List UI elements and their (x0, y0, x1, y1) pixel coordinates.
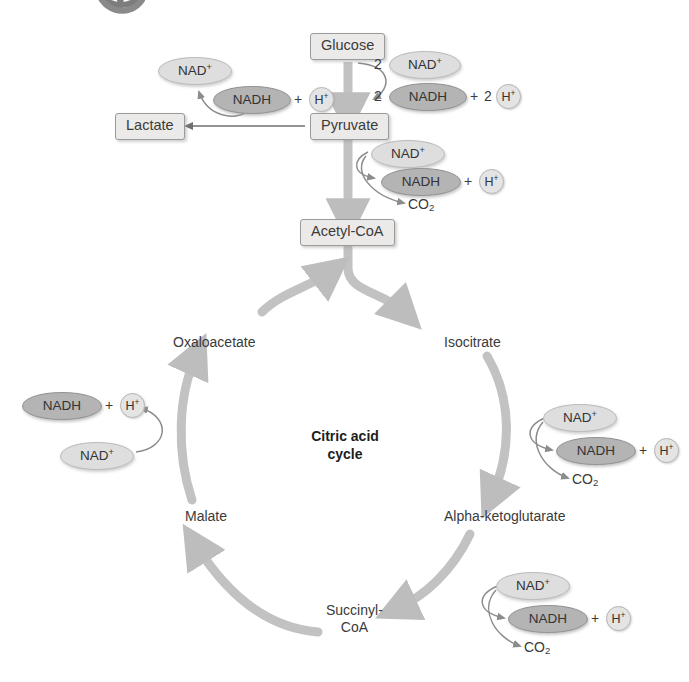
pill-label: NAD+ (563, 411, 597, 425)
circle-h-plus-malate: H+ (120, 393, 145, 418)
node-malate[interactable]: Malate (185, 508, 227, 525)
pill-nadh-isocitrate: NADH (556, 437, 636, 465)
cycle-center-title: Citric acid cycle (290, 428, 400, 463)
circle-h-plus-lactate: H+ (309, 87, 334, 112)
box-acetyl-coa[interactable]: Acetyl-CoA (300, 219, 395, 246)
arrow-acetylcoa-into-cycle (348, 248, 404, 312)
pill-nad-plus-akg: NAD+ (496, 572, 570, 600)
pill-nadh-lactate: NADH (213, 86, 291, 114)
node-alpha-ketoglutarate[interactable]: Alpha-ketoglutarate (444, 508, 565, 525)
pill-label: NAD+ (516, 579, 550, 593)
pill-nadh-pdh: NADH (381, 168, 461, 196)
arrow-malate-to-oxaloacetate (181, 356, 196, 500)
pill-label: NADH (409, 90, 447, 104)
label-co2-akg: CO2 (524, 639, 550, 655)
pill-label: NADH (43, 399, 81, 413)
glycolysis-nadh-count: 2 (374, 88, 382, 104)
pill-label: NADH (402, 175, 440, 189)
pill-nadh-glycolysis: NADH (389, 83, 467, 111)
arrow-isocitrate-to-alphaketoglutarate (487, 356, 506, 496)
box-pyruvate[interactable]: Pyruvate (310, 113, 389, 140)
pill-nad-plus-isocitrate: NAD+ (543, 404, 617, 432)
hplus-label: H+ (612, 612, 626, 626)
akg-plus-sign: + (591, 610, 599, 626)
malate-plus-sign: + (105, 397, 113, 413)
pill-nad-plus-glycolysis: NAD+ (389, 51, 461, 79)
pill-nad-plus-lactate: NAD+ (158, 57, 232, 85)
hplus-label: H+ (502, 90, 516, 104)
arrow-oxaloacetate-to-citrate (262, 272, 330, 312)
isocitrate-plus-sign: + (639, 442, 647, 458)
hplus-label: H+ (485, 175, 499, 189)
node-succinyl-coa-line1: Succinyl- (326, 602, 383, 619)
pill-nad-plus-malate: NAD+ (60, 442, 134, 470)
pill-label: NAD+ (391, 147, 425, 161)
glycolysis-nad-count: 2 (374, 56, 382, 72)
diagram-canvas: Glucose Pyruvate Lactate Acetyl-CoA 2 NA… (0, 0, 689, 682)
circle-h-plus-akg: H+ (606, 606, 631, 631)
label-co2-isocitrate: CO2 (572, 471, 598, 487)
pill-label: NAD+ (80, 449, 114, 463)
hplus-label: H+ (660, 444, 674, 458)
lactate-plus-sign: + (294, 91, 302, 107)
pill-nadh-akg: NADH (508, 605, 588, 633)
label-co2-pdh: CO2 (408, 196, 434, 212)
circle-h-plus-pdh: H+ (479, 169, 504, 194)
arrow-succinylcoa-to-malate (196, 545, 318, 632)
node-succinyl-coa-line2: CoA (326, 619, 383, 636)
node-oxaloacetate[interactable]: Oxaloacetate (173, 334, 256, 351)
pill-nadh-malate: NADH (22, 392, 102, 420)
glycolysis-h-count: 2 (484, 88, 492, 104)
hplus-label: H+ (126, 399, 140, 413)
pill-label: NAD+ (178, 64, 212, 78)
pdh-plus-sign: + (464, 173, 472, 189)
node-succinyl-coa[interactable]: Succinyl- CoA (326, 602, 383, 636)
arrow-alphaketoglutarate-to-succinylcoa (398, 534, 470, 608)
circle-h-plus-glycolysis: H+ (496, 84, 521, 109)
cycle-title-line1: Citric acid (290, 428, 400, 446)
cropped-arc-artifact (95, 0, 147, 11)
glycolysis-plus-sign: + (470, 88, 478, 104)
pill-label: NADH (577, 444, 615, 458)
pill-nad-plus-pdh: NAD+ (371, 140, 445, 168)
circle-h-plus-isocitrate: H+ (654, 438, 679, 463)
pill-label: NAD+ (408, 58, 442, 72)
cycle-title-line2: cycle (290, 446, 400, 464)
node-isocitrate[interactable]: Isocitrate (444, 334, 501, 351)
hplus-label: H+ (315, 93, 329, 107)
pill-label: NADH (529, 612, 567, 626)
box-lactate[interactable]: Lactate (115, 113, 185, 140)
diagram-arrows (0, 0, 689, 682)
pill-label: NADH (233, 93, 271, 107)
